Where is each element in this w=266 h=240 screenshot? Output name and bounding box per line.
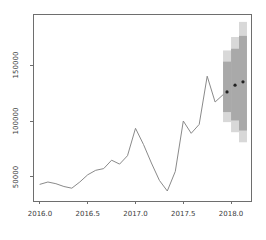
y-axis-tick-label: 100000 (12, 108, 20, 135)
x-axis-tick-label: 2017.0 (123, 210, 148, 218)
x-axis-tick-label: 2017.5 (171, 210, 196, 218)
x-axis-tick-label: 2016.0 (28, 210, 53, 218)
x-axis-tick-label: 2018.0 (219, 210, 244, 218)
x-axis-tick-label: 2016.5 (75, 210, 100, 218)
forecast-chart-canvas: 2016.02016.52017.02017.52018.05000010000… (0, 0, 266, 240)
plot-border (33, 14, 251, 201)
forecast-point (233, 84, 236, 87)
y-axis-tick-label: 50000 (12, 166, 20, 188)
forecast-point (241, 80, 244, 83)
forecast-point (225, 90, 228, 93)
observed-series-line (40, 76, 223, 191)
y-axis-tick-label: 150000 (12, 52, 20, 79)
forecast-interval-80 (223, 62, 231, 112)
forecast-plot-window: 2016.02016.52017.02017.52018.05000010000… (0, 0, 266, 240)
